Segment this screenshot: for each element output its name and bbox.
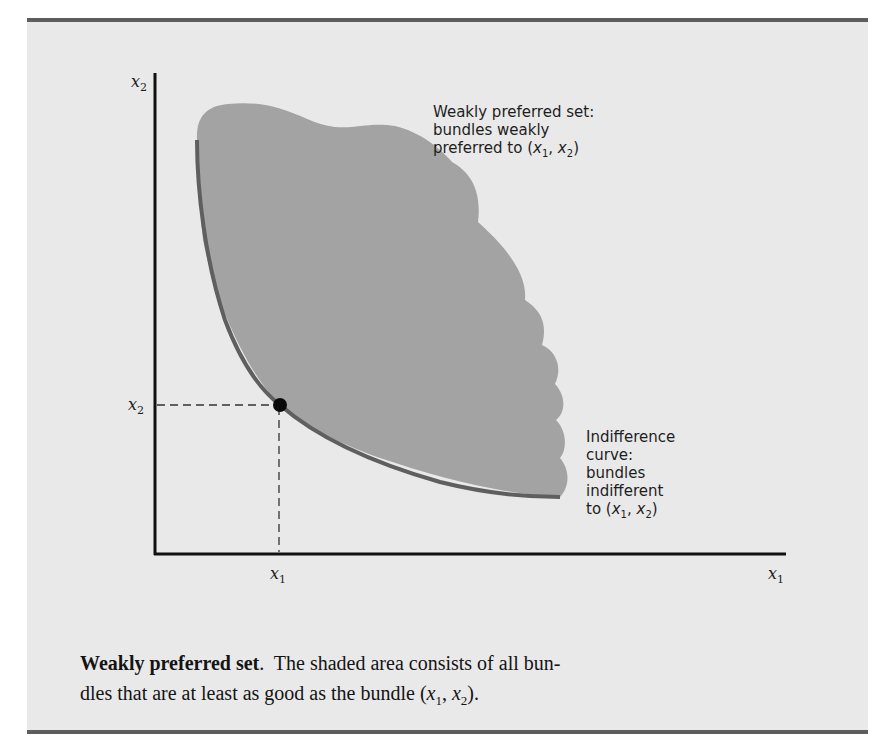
figure-caption: Weakly preferred set. The shaded area co… xyxy=(80,648,800,716)
bundle-point xyxy=(273,398,287,412)
x1-tick-label: x1 xyxy=(270,564,286,586)
indifference-curve-annotation: Indifference curve: bundles indifferent … xyxy=(586,428,675,524)
x-axis-label: x1 xyxy=(768,564,784,586)
y-axis-label: x2 xyxy=(131,72,147,94)
caption-title: Weakly preferred set xyxy=(80,652,259,674)
x2-tick-label: x2 xyxy=(128,395,144,417)
weakly-preferred-annotation: Weakly preferred set: bundles weakly pre… xyxy=(433,103,594,163)
